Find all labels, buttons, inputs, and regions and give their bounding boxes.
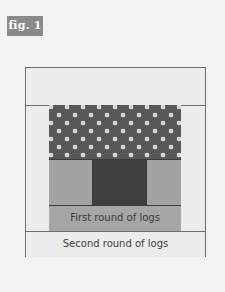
center-square (93, 160, 146, 205)
figure-label: fig. 1 (7, 16, 43, 36)
second-round-of-logs-label: Second round of logs (26, 231, 205, 257)
center-left-log (49, 160, 93, 205)
quilt-block-diagram: First round of logs Second round of logs (25, 67, 206, 257)
center-right-log (146, 160, 181, 205)
polka-dot-log (49, 105, 181, 160)
top-log-band (26, 68, 205, 106)
first-round-of-logs-label: First round of logs (49, 205, 181, 231)
